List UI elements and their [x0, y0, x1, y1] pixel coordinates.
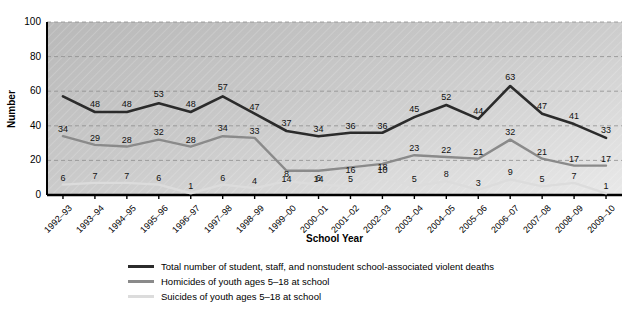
- y-tick-label: 100: [8, 16, 41, 27]
- data-label: 44: [466, 106, 490, 116]
- data-label: 32: [147, 127, 171, 137]
- data-label: 3: [466, 178, 490, 188]
- data-label: 33: [594, 125, 618, 135]
- data-label: 6: [51, 173, 75, 183]
- data-label: 7: [562, 171, 586, 181]
- legend-swatch: [128, 280, 154, 283]
- data-label: 34: [51, 124, 75, 134]
- data-label: 6: [147, 173, 171, 183]
- data-label: 21: [530, 147, 554, 157]
- data-label: 10: [370, 165, 394, 175]
- y-tick-label: 80: [8, 51, 41, 62]
- legend-item: Total number of student, staff, and nons…: [128, 261, 494, 272]
- data-label: 29: [83, 133, 107, 143]
- data-label: 5: [530, 174, 554, 184]
- data-label: 53: [147, 89, 171, 99]
- y-axis-title: Number: [6, 90, 17, 128]
- data-label: 21: [466, 147, 490, 157]
- data-label: 6: [211, 173, 235, 183]
- data-label: 7: [83, 171, 107, 181]
- data-label: 28: [179, 135, 203, 145]
- legend-item: Homicides of youth ages 5–18 at school: [128, 276, 329, 287]
- data-label: 5: [338, 174, 362, 184]
- data-label: 41: [562, 111, 586, 121]
- data-label: 52: [434, 92, 458, 102]
- legend-swatch: [128, 295, 154, 298]
- data-label: 22: [434, 145, 458, 155]
- data-label: 9: [498, 167, 522, 177]
- data-label: 7: [115, 171, 139, 181]
- legend-label: Total number of student, staff, and nons…: [161, 261, 494, 272]
- data-label: 1: [594, 181, 618, 191]
- data-label: 63: [498, 72, 522, 82]
- legend-label: Suicides of youth ages 5–18 at school: [161, 291, 321, 302]
- data-label: 8: [434, 169, 458, 179]
- chart-figure: 020406080100Number1992–931993–941994–951…: [0, 0, 632, 312]
- data-label: 33: [243, 126, 267, 136]
- data-label: 17: [562, 154, 586, 164]
- data-label: 47: [530, 101, 554, 111]
- data-label: 1: [179, 181, 203, 191]
- data-label: 5: [402, 174, 426, 184]
- data-label: 34: [211, 123, 235, 133]
- data-label: 4: [243, 176, 267, 186]
- data-label: 36: [338, 121, 362, 131]
- data-label: 23: [402, 143, 426, 153]
- data-label: 48: [115, 99, 139, 109]
- data-label: 17: [594, 154, 618, 164]
- data-label: 32: [498, 127, 522, 137]
- data-label: 6: [307, 173, 331, 183]
- y-tick-label: 0: [8, 189, 41, 200]
- data-label: 57: [211, 82, 235, 92]
- legend-swatch: [128, 265, 154, 269]
- legend-item: Suicides of youth ages 5–18 at school: [128, 291, 321, 302]
- y-tick-label: 20: [8, 154, 41, 165]
- data-label: 28: [115, 135, 139, 145]
- data-label: 8: [275, 169, 299, 179]
- data-label: 47: [243, 102, 267, 112]
- data-label: 34: [307, 124, 331, 134]
- data-label: 37: [275, 118, 299, 128]
- x-axis-title: School Year: [306, 233, 363, 244]
- data-label: 45: [402, 104, 426, 114]
- data-label: 48: [83, 99, 107, 109]
- legend-label: Homicides of youth ages 5–18 at school: [161, 276, 329, 287]
- data-label: 48: [179, 99, 203, 109]
- data-label: 36: [370, 121, 394, 131]
